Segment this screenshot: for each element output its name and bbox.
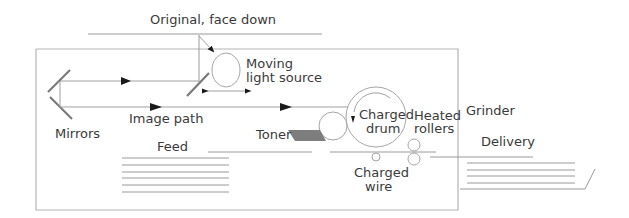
- label-grinder: Grinder: [466, 103, 516, 118]
- toner-hopper: [288, 130, 326, 141]
- heated-roller-top: [408, 139, 420, 151]
- feed-paper-stack: [122, 158, 229, 192]
- label-delivery: Delivery: [481, 134, 535, 149]
- photocopier-diagram: Original, face down Moving light source …: [0, 0, 629, 218]
- label-drum-2: drum: [366, 121, 401, 136]
- charged-wire: [372, 153, 380, 161]
- upper-path-arrow: [121, 77, 131, 85]
- label-image-path: Image path: [129, 111, 203, 126]
- lower-path-arrow-1: [150, 103, 162, 111]
- light-ray-arrow: [199, 36, 212, 50]
- label-drum-1: Charged: [359, 107, 414, 122]
- label-toner: Toner: [255, 127, 292, 142]
- light-source-lamp: [212, 53, 240, 87]
- toner-roller: [319, 112, 347, 140]
- scan-mirror: [187, 73, 209, 96]
- heated-roller-bottom: [408, 153, 420, 165]
- label-mirrors: Mirrors: [55, 126, 100, 141]
- label-light-source-2: light source: [246, 70, 322, 85]
- label-wire-1: Charged: [354, 165, 409, 180]
- label-wire-2: wire: [365, 179, 392, 194]
- lower-path-arrow-2: [280, 103, 292, 111]
- label-light-source-1: Moving: [246, 56, 293, 71]
- delivery-tray: [460, 169, 595, 189]
- left-mirror-bottom: [50, 97, 72, 119]
- label-rollers-2: rollers: [414, 121, 455, 136]
- label-original: Original, face down: [150, 12, 276, 27]
- delivery-paper-stack: [467, 163, 575, 183]
- label-feed: Feed: [157, 139, 188, 154]
